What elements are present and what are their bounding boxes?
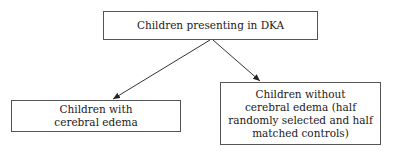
node-label: Children presenting in DKA (137, 19, 284, 32)
node-label-line: cerebral edema (half (228, 101, 373, 114)
node-children-without-cerebral-edema: Children without cerebral edema (half ra… (220, 82, 381, 145)
node-children-presenting-dka: Children presenting in DKA (103, 11, 318, 40)
arrow-to-left (113, 40, 210, 99)
node-label-line: randomly selected and half (228, 114, 373, 127)
node-label-line: Children without (228, 88, 373, 101)
node-label-line: cerebral edema (54, 116, 137, 129)
node-label-line: Children with (54, 103, 137, 116)
node-children-with-cerebral-edema: Children with cerebral edema (11, 100, 181, 132)
node-label-line: matched controls) (228, 127, 373, 140)
arrow-to-right (213, 40, 260, 81)
